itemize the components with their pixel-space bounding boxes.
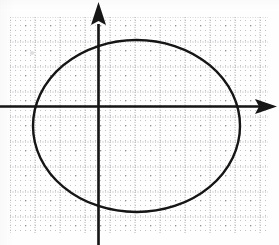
figure-canvas: [0, 0, 279, 245]
scan-speck: [30, 51, 34, 55]
ellipse-figure: Ellipse centered off-origin on dotted gr…: [0, 0, 279, 245]
grid-major-dots: [10, 17, 268, 234]
grid-group: [10, 17, 268, 234]
